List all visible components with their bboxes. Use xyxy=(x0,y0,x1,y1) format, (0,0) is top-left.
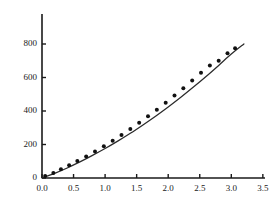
x-tick-label: 1.5 xyxy=(125,184,149,193)
plot-area xyxy=(0,0,279,204)
y-tick-label: 200 xyxy=(24,140,38,149)
data-point xyxy=(43,174,47,178)
data-point-markers xyxy=(43,46,237,178)
fitted-curve xyxy=(42,44,244,178)
data-point xyxy=(137,121,141,125)
y-tick-label: 400 xyxy=(24,106,38,115)
x-tick-label: 0.0 xyxy=(30,184,54,193)
data-point xyxy=(208,63,212,67)
data-point xyxy=(75,159,79,163)
data-point xyxy=(164,101,168,105)
data-point xyxy=(51,171,55,175)
x-tick-label: 0.5 xyxy=(62,184,86,193)
data-point xyxy=(111,139,115,143)
data-point xyxy=(155,108,159,112)
data-point xyxy=(233,46,237,50)
data-point xyxy=(59,167,63,171)
data-point xyxy=(120,133,124,137)
x-tick-label: 2.0 xyxy=(156,184,180,193)
data-point xyxy=(67,163,71,167)
data-point xyxy=(102,144,106,148)
x-tick-label: 3.0 xyxy=(219,184,243,193)
data-point xyxy=(146,114,150,118)
x-tick-label: 1.0 xyxy=(93,184,117,193)
y-tick-label: 800 xyxy=(24,39,38,48)
y-tick-label: 600 xyxy=(24,73,38,82)
data-point xyxy=(181,86,185,90)
x-tick-label: 3.5 xyxy=(251,184,275,193)
data-point xyxy=(84,155,88,159)
axes-group xyxy=(42,14,265,178)
data-point xyxy=(128,127,132,131)
data-point xyxy=(217,59,221,63)
data-point xyxy=(190,79,194,83)
data-point xyxy=(199,71,203,75)
data-point xyxy=(226,51,230,55)
data-point xyxy=(93,150,97,154)
chart-container: 0200400600800 0.00.51.01.52.02.53.03.5 xyxy=(0,0,279,204)
y-tick-label: 0 xyxy=(33,173,38,182)
data-point xyxy=(173,94,177,98)
x-tick-label: 2.5 xyxy=(188,184,212,193)
